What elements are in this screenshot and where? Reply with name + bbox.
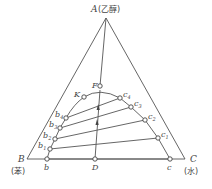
label-A-component: (乙醇) [98, 4, 120, 14]
point-b1 [48, 147, 52, 151]
point-c1 [156, 136, 160, 140]
tie-line-b2-c2 [55, 120, 145, 139]
point-K [82, 95, 86, 99]
label-c1: c1 [161, 130, 169, 140]
tie-line-b1-c1 [50, 138, 158, 149]
line-A-F [100, 18, 106, 86]
label-B-component: (苯) [11, 166, 25, 176]
point-c [168, 157, 172, 161]
label-A: A [90, 4, 98, 14]
label-c3: c3 [134, 99, 142, 109]
point-D [93, 157, 97, 161]
label-K: K [73, 90, 81, 99]
label-b2: b2 [43, 131, 51, 141]
point-b4 [64, 116, 68, 120]
point-c2 [143, 118, 147, 122]
label-C: C [190, 154, 197, 164]
point-b2 [53, 137, 57, 141]
label-F: F [91, 81, 98, 90]
label-c4: c4 [123, 90, 131, 100]
point-b3 [58, 126, 62, 130]
label-b: b [44, 163, 49, 172]
label-D: D [91, 163, 99, 172]
point-b [45, 157, 49, 161]
label-B: B [17, 154, 25, 164]
label-C-component: (水) [184, 166, 198, 176]
label-c2: c2 [148, 112, 156, 122]
label-b3: b3 [49, 120, 57, 130]
point-c4 [118, 96, 122, 100]
tie-line-b4-c4 [66, 98, 120, 118]
point-c3 [129, 105, 133, 109]
ternary-diagram: A (乙醇) B (苯) C (水) F K b D c b1 b2 b3 b4… [0, 0, 212, 189]
label-b4: b4 [55, 110, 63, 120]
point-F [98, 84, 102, 88]
label-c: c [167, 163, 172, 172]
label-b1: b1 [38, 141, 46, 151]
